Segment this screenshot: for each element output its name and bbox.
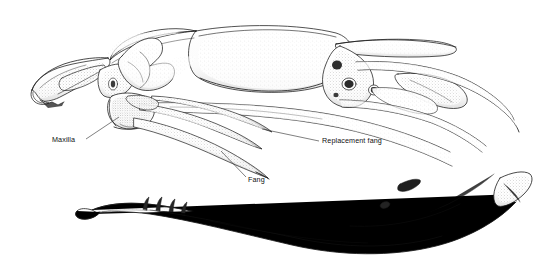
figure-container: Maxilla Replacement fang Fang — [0, 0, 540, 259]
label-maxilla: Maxilla — [52, 135, 75, 144]
lacrimal-foramen-inner — [111, 81, 115, 88]
label-replacement-fang: Replacement fang — [322, 136, 382, 145]
snake-skull-illustration — [0, 0, 540, 259]
foramen-upper — [332, 61, 342, 70]
foramen-middle-core — [344, 80, 353, 88]
label-fang: Fang — [248, 175, 265, 184]
foramen-small — [333, 93, 338, 97]
